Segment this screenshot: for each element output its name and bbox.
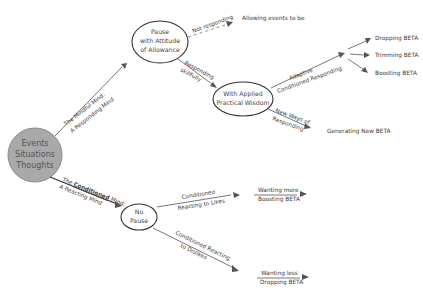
arrow-icon	[233, 192, 240, 198]
pause-line-1: Pause	[151, 28, 169, 35]
leaf-allowing: Allowing events to be	[242, 15, 305, 22]
leaf-wanting-less: Wanting less Dropping BETA	[257, 270, 309, 286]
leaf-wanting-more: Wanting more Boosting BETA	[254, 187, 307, 203]
pause-line-2: with Attitude	[140, 37, 180, 44]
edge-new-ways: New Ways of Responding	[268, 107, 311, 133]
arrow-icon	[364, 52, 370, 58]
arrow-icon	[232, 265, 239, 272]
wisdom-line-2: Practical Wisdom	[216, 99, 269, 106]
leaf-wanting-less-top: Wanting less	[261, 270, 298, 277]
wisdom-line-1: With Applied	[223, 90, 262, 98]
leaf-wanting-less-bottom: Dropping BETA	[260, 279, 303, 286]
edge-mindful-mind: The Mindful Mind: A Responding Mind	[55, 63, 127, 136]
edge-reacting-dislikes: Conditioned Reacting to Dislikes	[153, 228, 239, 272]
no-pause-line-2: Pause	[130, 217, 148, 224]
node-wisdom: With Applied Practical Wisdom	[213, 82, 273, 116]
root-line-1: Events	[21, 139, 48, 148]
leaf-trimming: Trimming BETA	[374, 52, 419, 59]
edge-responding-skillfully: Responding skillfully	[178, 59, 217, 88]
mind-diagram: Events Situations Thoughts The Mindful M…	[0, 0, 423, 296]
arrow-icon	[338, 52, 345, 58]
leaf-boosting: Boosting BETA	[375, 70, 417, 77]
node-pause: Pause with Attitude of Allowance	[132, 21, 188, 63]
leaf-dropping: Dropping BETA	[375, 35, 418, 42]
edge-not-responding: Not responding	[188, 13, 234, 37]
edge-conditioned-mind: The Conditioned Mind: A Reacting Mind	[50, 176, 126, 208]
leaf-wanting-more-top: Wanting more	[258, 187, 299, 194]
root-line-3: Thoughts	[15, 161, 53, 170]
no-pause-line-1: No	[135, 208, 144, 215]
leaf-generating: Generating New BETA	[327, 128, 391, 135]
root-node: Events Situations Thoughts	[8, 128, 62, 182]
leaf-wanting-more-bottom: Boosting BETA	[258, 196, 300, 203]
root-line-2: Situations	[15, 150, 55, 159]
pause-line-3: of Allowance	[140, 46, 180, 53]
arrow-icon	[226, 21, 233, 27]
node-no-pause: No Pause	[121, 204, 157, 230]
edge-adaptive: Adaptive Conditioned Responding	[271, 38, 371, 95]
arrow-icon	[302, 274, 309, 280]
arrow-icon	[121, 63, 127, 69]
arrow-icon	[300, 191, 307, 197]
edge-reacting-likes: Conditioned Reacting to Likes	[157, 189, 240, 212]
